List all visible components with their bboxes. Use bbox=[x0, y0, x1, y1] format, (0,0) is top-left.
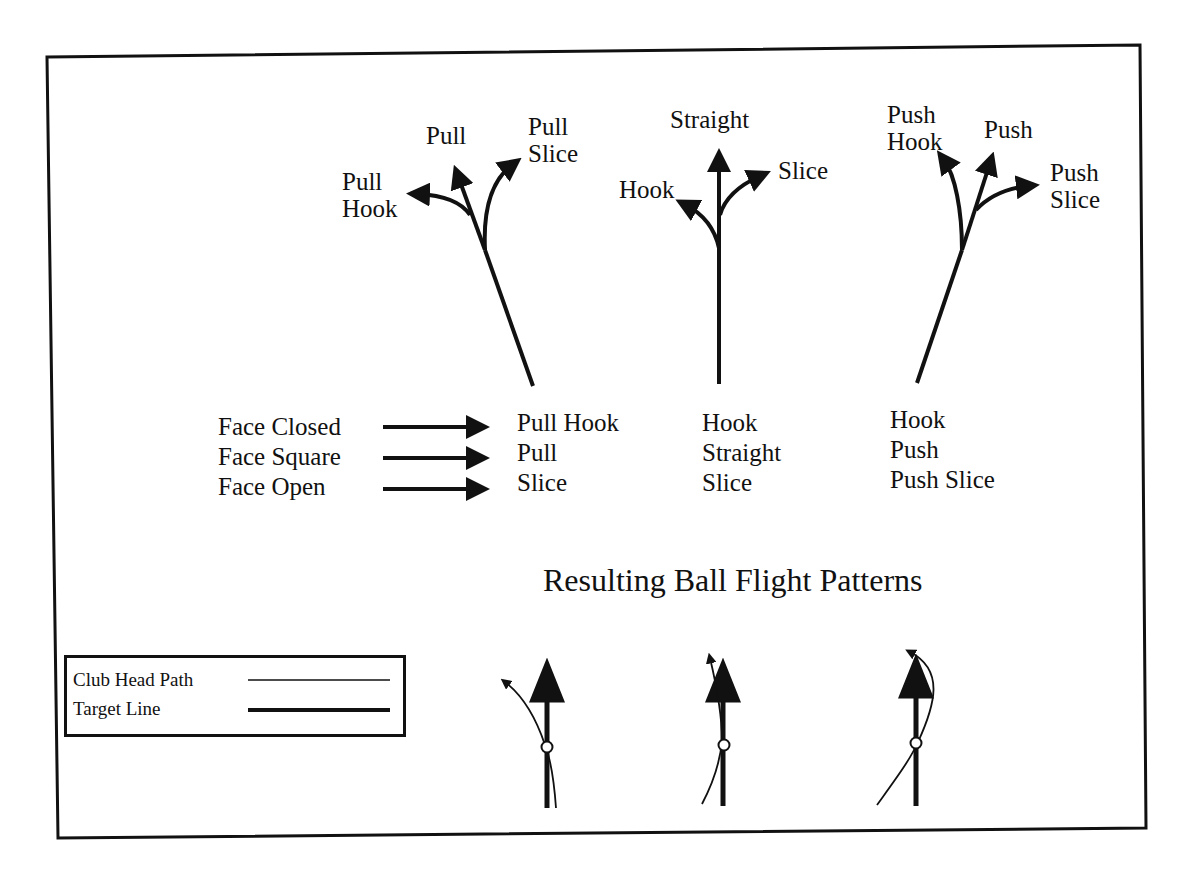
face-square-label: Face Square bbox=[218, 442, 341, 472]
push-hook-label-line1: Push bbox=[887, 101, 943, 128]
push-slice-label-line2: Slice bbox=[1050, 186, 1100, 213]
pull-result-square: Pull bbox=[517, 438, 619, 468]
push-result-open: Push Slice bbox=[890, 465, 995, 495]
push-slice-label: Push Slice bbox=[1050, 159, 1100, 213]
pull-hook-label-line1: Pull bbox=[342, 168, 398, 195]
legend-club-head-path-label: Club Head Path bbox=[73, 669, 193, 691]
push-result-closed: Hook bbox=[890, 405, 995, 435]
straight-label: Straight bbox=[670, 106, 749, 133]
face-column: Face Closed Face Square Face Open bbox=[218, 412, 341, 502]
pull-result-closed: Pull Hook bbox=[517, 408, 619, 438]
push-results-column: Hook Push Push Slice bbox=[890, 405, 995, 495]
pull-flight-diagram bbox=[418, 165, 533, 386]
push-flight-diagram bbox=[917, 160, 1028, 383]
hook-label: Hook bbox=[619, 176, 675, 203]
push-hook-label-line2: Hook bbox=[887, 128, 943, 155]
push-result-square: Push bbox=[890, 435, 995, 465]
straight-result-open: Slice bbox=[702, 468, 781, 498]
flight-pattern-2 bbox=[702, 658, 730, 806]
pull-hook-label-line2: Hook bbox=[342, 195, 398, 222]
pull-result-open: Slice bbox=[517, 468, 619, 498]
section-title: Resulting Ball Flight Patterns bbox=[543, 562, 923, 599]
straight-result-closed: Hook bbox=[702, 408, 781, 438]
pull-slice-label: Pull Slice bbox=[528, 113, 578, 167]
flight-pattern-1 bbox=[505, 680, 556, 808]
pull-slice-label-line1: Pull bbox=[528, 113, 578, 140]
legend-target-line-label: Target Line bbox=[73, 698, 160, 720]
pull-results-column: Pull Hook Pull Slice bbox=[517, 408, 619, 498]
push-slice-label-line1: Push bbox=[1050, 159, 1100, 186]
push-hook-label: Push Hook bbox=[887, 101, 943, 155]
pull-hook-label: Pull Hook bbox=[342, 168, 398, 222]
straight-flight-diagram bbox=[686, 160, 760, 384]
flight-pattern-3 bbox=[877, 652, 934, 806]
straight-results-column: Hook Straight Slice bbox=[702, 408, 781, 498]
pull-slice-label-line2: Slice bbox=[528, 140, 578, 167]
legend-box bbox=[64, 655, 406, 737]
straight-result-square: Straight bbox=[702, 438, 781, 468]
slice-label: Slice bbox=[778, 157, 828, 184]
face-closed-label: Face Closed bbox=[218, 412, 341, 442]
push-label: Push bbox=[984, 116, 1033, 143]
face-arrows bbox=[383, 427, 478, 489]
pull-label: Pull bbox=[426, 122, 466, 149]
face-open-label: Face Open bbox=[218, 472, 341, 502]
